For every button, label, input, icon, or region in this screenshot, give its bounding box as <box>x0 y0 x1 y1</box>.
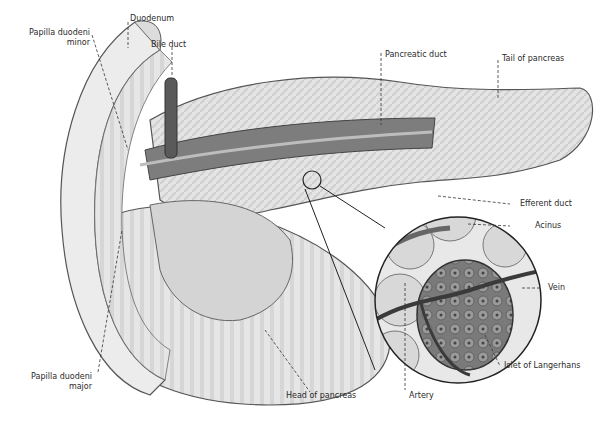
pancreas-diagram: Duodenum Papilla duodeni minor Bile duct… <box>0 0 600 423</box>
label-papilla-minor-line1: Papilla duodeni <box>26 28 90 38</box>
label-papilla-duodeni-minor: Papilla duodeni minor <box>26 28 90 48</box>
label-papilla-major-line1: Papilla duodeni <box>26 372 92 382</box>
label-acinus: Acinus <box>535 221 561 231</box>
label-papilla-major-line2: major <box>26 382 92 392</box>
label-head-of-pancreas: Head of pancreas <box>286 391 356 401</box>
label-tail-of-pancreas: Tail of pancreas <box>502 54 564 64</box>
label-pancreatic-duct: Pancreatic duct <box>385 50 447 60</box>
label-vein: Vein <box>548 283 565 293</box>
label-bile-duct: Bile duct <box>151 40 186 50</box>
label-papilla-duodeni-major: Papilla duodeni major <box>26 372 92 392</box>
label-efferent-duct: Efferent duct <box>520 199 572 209</box>
label-artery: Artery <box>409 391 434 401</box>
label-islet-of-langerhans: Islet of Langerhans <box>504 361 580 371</box>
bile-duct <box>165 78 177 158</box>
label-duodenum: Duodenum <box>130 14 174 24</box>
label-papilla-minor-line2: minor <box>26 38 90 48</box>
